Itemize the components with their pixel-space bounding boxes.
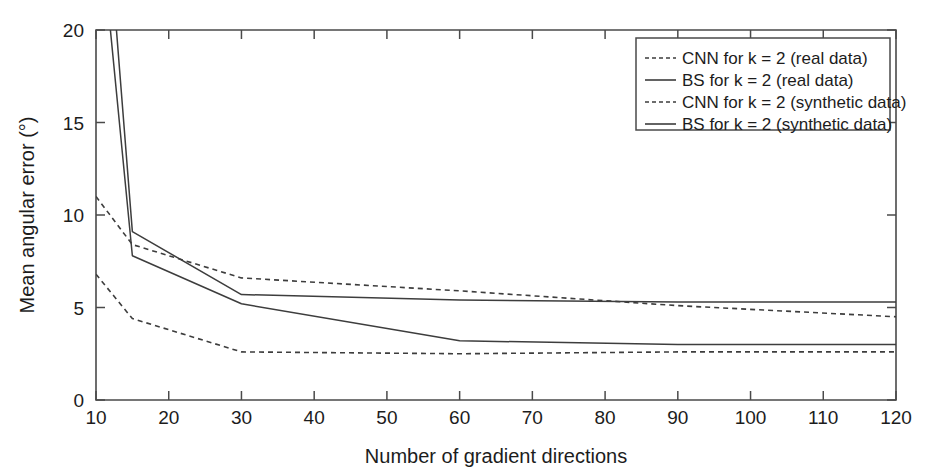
x-axis-title: Number of gradient directions bbox=[365, 445, 627, 467]
legend-label: CNN for k = 2 (synthetic data) bbox=[682, 93, 906, 112]
x-tick-label: 100 bbox=[735, 407, 767, 428]
y-tick-label: 15 bbox=[63, 113, 84, 134]
x-tick-label: 40 bbox=[304, 407, 325, 428]
x-axis-tick-labels: 102030405060708090100110120 bbox=[85, 407, 911, 428]
x-tick-label: 60 bbox=[449, 407, 470, 428]
y-tick-label: 5 bbox=[73, 298, 84, 319]
series-line bbox=[96, 197, 896, 317]
legend-label: BS for k = 2 (synthetic data) bbox=[682, 115, 892, 134]
y-axis-title: Mean angular error (°) bbox=[16, 117, 38, 314]
x-tick-label: 120 bbox=[880, 407, 912, 428]
x-tick-label: 70 bbox=[522, 407, 543, 428]
legend-label: BS for k = 2 (real data) bbox=[682, 71, 854, 90]
legend-label: CNN for k = 2 (real data) bbox=[682, 49, 868, 68]
x-tick-label: 20 bbox=[158, 407, 179, 428]
line-chart: 102030405060708090100110120 05101520 Num… bbox=[0, 0, 951, 474]
y-axis-tick-labels: 05101520 bbox=[63, 20, 84, 411]
x-tick-label: 30 bbox=[231, 407, 252, 428]
figure-container: 102030405060708090100110120 05101520 Num… bbox=[0, 0, 951, 474]
y-tick-label: 0 bbox=[73, 390, 84, 411]
legend: CNN for k = 2 (real data)BS for k = 2 (r… bbox=[636, 38, 906, 134]
x-tick-label: 110 bbox=[808, 407, 838, 428]
x-tick-label: 50 bbox=[376, 407, 397, 428]
y-tick-label: 20 bbox=[63, 20, 84, 41]
x-tick-label: 90 bbox=[667, 407, 688, 428]
x-tick-label: 10 bbox=[85, 407, 106, 428]
x-tick-label: 80 bbox=[595, 407, 616, 428]
y-tick-label: 10 bbox=[63, 205, 84, 226]
